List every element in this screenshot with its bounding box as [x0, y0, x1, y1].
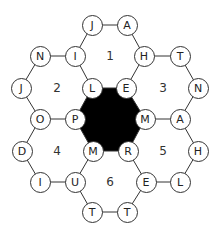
letter-node-l[interactable]: L — [170, 172, 191, 193]
letter-node-h[interactable]: H — [188, 141, 209, 162]
hex-cell-label-6: 6 — [106, 175, 114, 189]
hex-cell-label-1: 1 — [106, 49, 114, 63]
letter-node-t[interactable]: T — [82, 202, 103, 223]
hex-cell-label-4: 4 — [53, 144, 61, 158]
letter-node-m[interactable]: M — [83, 141, 104, 162]
hex-cell-label-3: 3 — [159, 81, 167, 95]
letter-node-o[interactable]: O — [30, 109, 51, 130]
letter-node-n[interactable]: N — [188, 78, 209, 99]
letter-node-t[interactable]: T — [170, 46, 191, 67]
letter-node-m[interactable]: M — [135, 109, 156, 130]
letter-node-t[interactable]: T — [117, 202, 138, 223]
letter-node-h[interactable]: H — [134, 46, 155, 67]
hex-cell-label-5: 5 — [159, 144, 167, 158]
letter-node-j[interactable]: J — [82, 15, 103, 36]
letter-node-e[interactable]: E — [136, 172, 157, 193]
letter-node-u[interactable]: U — [65, 172, 86, 193]
letter-node-e[interactable]: E — [116, 78, 137, 99]
letter-node-a[interactable]: A — [170, 109, 191, 130]
letter-node-j[interactable]: J — [11, 78, 32, 99]
hex-cell-label-2: 2 — [53, 81, 61, 95]
letter-node-d[interactable]: D — [12, 141, 33, 162]
letter-node-i[interactable]: I — [30, 172, 51, 193]
letter-node-r[interactable]: R — [118, 141, 139, 162]
letter-node-p[interactable]: P — [65, 109, 86, 130]
letter-node-a[interactable]: A — [117, 15, 138, 36]
letter-node-l[interactable]: L — [82, 78, 103, 99]
letter-node-i[interactable]: I — [65, 46, 86, 67]
letter-node-n[interactable]: N — [30, 46, 51, 67]
puzzle-board: J A N I H T J L E N O P M A D M R H I U … — [0, 0, 221, 233]
